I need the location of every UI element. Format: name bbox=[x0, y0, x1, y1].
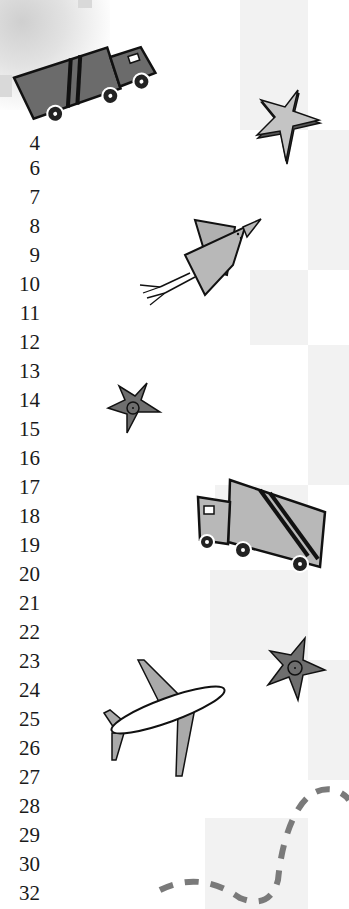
bird-icon bbox=[135, 215, 265, 310]
line-number: 8 bbox=[0, 214, 40, 238]
truck-icon bbox=[10, 10, 160, 110]
line-number: 11 bbox=[0, 301, 40, 325]
truck-icon bbox=[190, 472, 330, 572]
line-number: 22 bbox=[0, 620, 40, 644]
line-number: 28 bbox=[0, 794, 40, 818]
line-number: 20 bbox=[0, 562, 40, 586]
line-number: 24 bbox=[0, 678, 40, 702]
line-number: 29 bbox=[0, 823, 40, 847]
dashed-path-icon bbox=[160, 780, 349, 909]
line-number: 10 bbox=[0, 272, 40, 296]
line-number: 19 bbox=[0, 533, 40, 557]
line-number: 23 bbox=[0, 649, 40, 673]
line-number: 13 bbox=[0, 359, 40, 383]
corner-block bbox=[78, 0, 92, 8]
star-icon bbox=[105, 378, 165, 436]
line-number: 26 bbox=[0, 736, 40, 760]
line-number: 4 bbox=[0, 131, 40, 155]
airplane-icon bbox=[100, 658, 230, 778]
line-number: 30 bbox=[0, 852, 40, 876]
line-number: 12 bbox=[0, 330, 40, 354]
line-number: 7 bbox=[0, 185, 40, 209]
line-number: 9 bbox=[0, 243, 40, 267]
line-number: 16 bbox=[0, 446, 40, 470]
line-number: 18 bbox=[0, 504, 40, 528]
bg-tile bbox=[308, 345, 349, 485]
star-icon bbox=[265, 635, 330, 703]
line-number: 17 bbox=[0, 475, 40, 499]
line-number: 27 bbox=[0, 765, 40, 789]
line-number: 25 bbox=[0, 707, 40, 731]
line-number: 14 bbox=[0, 388, 40, 412]
line-number: 15 bbox=[0, 417, 40, 441]
line-number: 6 bbox=[0, 156, 40, 180]
line-number: 21 bbox=[0, 591, 40, 615]
star-icon bbox=[255, 85, 325, 165]
book-page: 4 6 7 8 9 10 11 12 13 14 15 16 17 18 19 … bbox=[0, 0, 349, 909]
line-number: 32 bbox=[0, 881, 40, 905]
